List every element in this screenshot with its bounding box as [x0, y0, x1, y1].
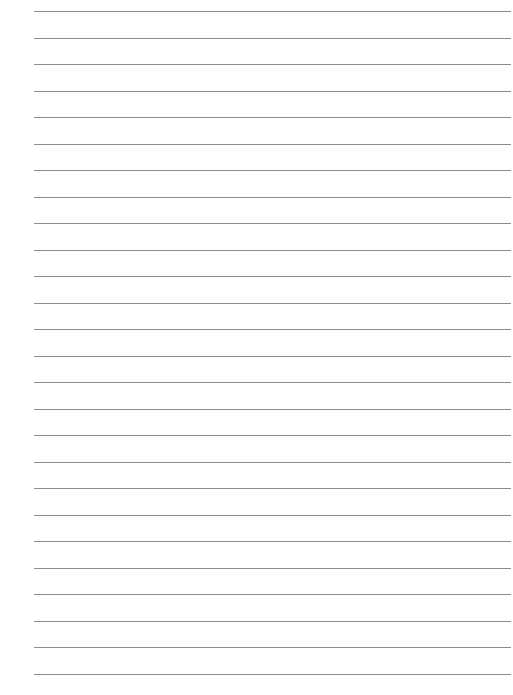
ruled-line	[34, 541, 511, 542]
ruled-line	[34, 621, 511, 622]
ruled-line	[34, 674, 511, 675]
ruled-line	[34, 382, 511, 383]
ruled-line	[34, 38, 511, 39]
ruled-line	[34, 117, 511, 118]
ruled-line	[34, 276, 511, 277]
ruled-line	[34, 11, 511, 12]
ruled-line	[34, 197, 511, 198]
ruled-line	[34, 647, 511, 648]
ruled-line	[34, 144, 511, 145]
ruled-line	[34, 170, 511, 171]
ruled-line	[34, 409, 511, 410]
ruled-line	[34, 435, 511, 436]
ruled-line	[34, 91, 511, 92]
ruled-line	[34, 64, 511, 65]
ruled-line	[34, 303, 511, 304]
ruled-line	[34, 250, 511, 251]
ruled-line	[34, 515, 511, 516]
ruled-line	[34, 329, 511, 330]
ruled-line	[34, 462, 511, 463]
ruled-line	[34, 594, 511, 595]
ruled-line	[34, 568, 511, 569]
ruled-line	[34, 356, 511, 357]
ruled-line	[34, 223, 511, 224]
ruled-page	[0, 0, 513, 695]
ruled-line	[34, 488, 511, 489]
